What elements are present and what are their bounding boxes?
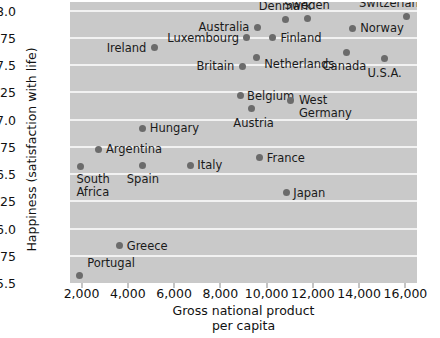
- data-point: [248, 105, 255, 112]
- y-axis-tick: 6.25: [0, 194, 16, 209]
- y-axis-tick: 7.0: [0, 112, 16, 127]
- x-axis-tick: 2,000: [64, 286, 100, 301]
- data-point: [139, 125, 146, 132]
- gridline: [70, 200, 417, 202]
- data-point: [77, 163, 84, 170]
- x-axis-tick: 12,000: [291, 286, 335, 301]
- data-point: [283, 189, 290, 196]
- y-axis-tick: 7.75: [0, 30, 16, 45]
- y-axis-title: Happiness (satisfaction with life): [24, 25, 39, 275]
- data-point: [256, 154, 263, 161]
- data-point: [76, 272, 83, 279]
- x-axis-title: Gross national product per capita: [70, 303, 417, 333]
- data-point: [243, 34, 250, 41]
- y-axis-tick: 6.0: [0, 221, 16, 236]
- plot-area: PortugalGreeceSouth AfricaArgentinaSpain…: [70, 2, 417, 283]
- data-point: [253, 54, 260, 61]
- data-point: [151, 44, 158, 51]
- x-axis-tick: 10,000: [245, 286, 289, 301]
- y-axis-tick: 8.0: [0, 3, 16, 18]
- data-point: [239, 63, 246, 70]
- data-point: [403, 13, 410, 20]
- data-point: [304, 15, 311, 22]
- data-point-label: Australia: [199, 21, 250, 34]
- data-point: [269, 34, 276, 41]
- data-point-label: France: [267, 151, 305, 164]
- data-point-label: Spain: [127, 173, 159, 186]
- data-point-label: Norway: [360, 22, 404, 35]
- y-axis-tick: 7.25: [0, 85, 16, 100]
- scatter-chart: Happiness (satisfaction with life) 5.55.…: [0, 0, 440, 338]
- data-point-label: Argentina: [106, 143, 162, 156]
- x-axis-tick: 16,000: [384, 286, 428, 301]
- data-point: [282, 16, 289, 23]
- data-point-label: Austria: [233, 116, 274, 129]
- data-point-label: Italy: [197, 159, 222, 172]
- data-point-label: Ireland: [107, 41, 147, 54]
- data-point-label: Finland: [280, 32, 321, 45]
- x-axis-tick: 4,000: [110, 286, 146, 301]
- data-point-label: Britain: [196, 60, 234, 73]
- gridline: [70, 228, 417, 230]
- y-axis-tick: 5.5: [0, 276, 16, 291]
- data-point: [116, 242, 123, 249]
- x-axis-tick: 14,000: [337, 286, 381, 301]
- data-point-label: Sweden: [284, 2, 329, 12]
- data-point-label: U.S.A.: [367, 66, 401, 79]
- data-point-label: Portugal: [87, 257, 135, 270]
- data-point-label: Switzerland: [359, 2, 417, 9]
- data-point: [95, 146, 102, 153]
- data-point: [381, 55, 388, 62]
- gridline: [70, 10, 417, 12]
- data-point: [187, 162, 194, 169]
- data-point: [343, 49, 350, 56]
- data-point-label: South Africa: [76, 173, 109, 198]
- data-point-label: Hungary: [150, 122, 199, 135]
- y-axis-tick: 6.75: [0, 139, 16, 154]
- data-point-label: Greece: [127, 240, 168, 253]
- data-point: [254, 24, 261, 31]
- gridline: [70, 173, 417, 175]
- y-axis-tick: 6.5: [0, 167, 16, 182]
- data-point-label: Japan: [293, 186, 325, 199]
- data-point: [237, 92, 244, 99]
- x-axis-tick: 6,000: [156, 286, 192, 301]
- data-point: [349, 25, 356, 32]
- data-point: [139, 162, 146, 169]
- x-axis-tick: 8,000: [202, 286, 238, 301]
- data-point-label: West Germany: [299, 94, 352, 119]
- y-axis-tick: 5.75: [0, 248, 16, 263]
- data-point-label: Canada: [323, 60, 367, 73]
- y-axis-tick: 7.5: [0, 58, 16, 73]
- data-point: [287, 97, 294, 104]
